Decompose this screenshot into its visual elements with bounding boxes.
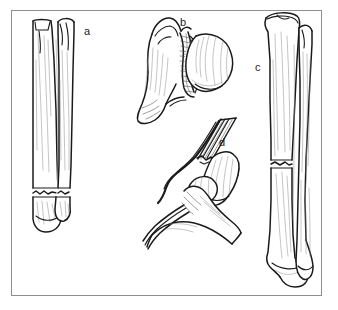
panel-d-elbow [143,118,241,249]
panel-label-a: a [84,26,90,37]
panel-b-femoral-head [184,34,232,91]
panel-c-tibia-fibula [265,13,313,287]
panel-label-b: b [180,17,186,28]
panel-c-fibula [296,25,313,279]
panel-label-c: c [255,62,261,73]
panel-a-tibia-fibula [33,19,74,232]
panel-b-proximal-femur [137,18,233,124]
panel-b-greater-trochanter [137,18,193,124]
bone-illustration-svg: .ink { fill: none; stroke: #1a1a1a; stro… [0,0,338,310]
figure-plate: .ink { fill: none; stroke: #1a1a1a; stro… [0,0,338,310]
panel-label-d: d [219,137,225,148]
